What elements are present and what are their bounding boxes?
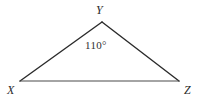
vertex-label-Z: Z: [184, 84, 191, 96]
edge-XY: [20, 22, 102, 81]
vertex-label-X: X: [7, 84, 14, 96]
edge-YZ: [102, 22, 179, 81]
vertex-label-Y: Y: [96, 4, 103, 16]
geometry-figure: Y X Z 110°: [0, 0, 200, 102]
angle-measure-label-Y: 110°: [85, 39, 107, 51]
